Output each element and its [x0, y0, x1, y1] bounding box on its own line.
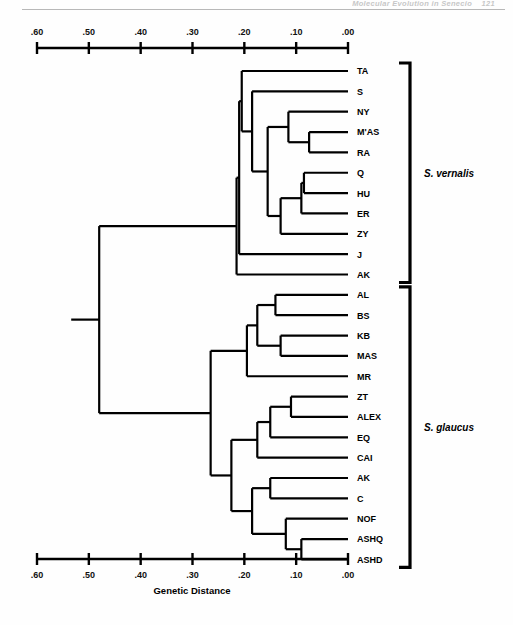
- species-label: S. glaucus: [424, 422, 474, 433]
- axis-title: Genetic Distance: [153, 585, 230, 596]
- tick-label-top: .50: [83, 27, 96, 37]
- dendrogram-tree: [71, 71, 348, 559]
- tick-label-bottom: .00: [342, 570, 355, 580]
- leaf-label: ALEX: [357, 412, 381, 422]
- tick-label-bottom: .60: [31, 570, 44, 580]
- tick-label-top: .00: [342, 27, 355, 37]
- leaf-label: ZT: [357, 392, 368, 402]
- leaf-label: NY: [357, 107, 370, 117]
- species-brackets: S. vernalisS. glaucus: [399, 63, 474, 567]
- leaf-label: BS: [357, 311, 370, 321]
- leaf-label: AL: [357, 290, 369, 300]
- species-bracket: [399, 287, 410, 568]
- tick-label-top: .20: [238, 27, 251, 37]
- leaf-label: TA: [357, 66, 369, 76]
- tick-label-bottom: .10: [290, 570, 303, 580]
- dendrogram-figure: .60.60.50.50.40.40.30.30.20.20.10.10.00.…: [0, 0, 513, 625]
- figure-page: Molecular Evolution in Senecio 121 .60.6…: [0, 0, 513, 625]
- species-bracket: [399, 63, 410, 283]
- leaf-label: C: [357, 494, 364, 504]
- leaf-label: KB: [357, 331, 370, 341]
- leaf-label: RA: [357, 148, 370, 158]
- tick-label-bottom: .20: [238, 570, 251, 580]
- leaf-label: AK: [357, 473, 370, 483]
- tick-label-top: .30: [186, 27, 199, 37]
- species-label: S. vernalis: [424, 168, 474, 179]
- leaf-label: MAS: [357, 351, 377, 361]
- tick-label-bottom: .50: [83, 570, 96, 580]
- leaf-label: MR: [357, 372, 371, 382]
- leaf-label: HU: [357, 189, 370, 199]
- tick-label-top: .60: [31, 27, 44, 37]
- leaf-label: M'AS: [357, 127, 379, 137]
- leaf-label: AK: [357, 270, 370, 280]
- leaf-label: S: [357, 87, 363, 97]
- leaf-label: J: [357, 250, 362, 260]
- leaf-labels: TASNYM'ASRAQHUERZYJAKALBSKBMASMRZTALEXEQ…: [357, 66, 383, 564]
- tick-label-top: .10: [290, 27, 303, 37]
- tick-label-top: .40: [134, 27, 147, 37]
- leaf-label: ASHD: [357, 555, 383, 565]
- leaf-label: ZY: [357, 229, 369, 239]
- axis-ticks: .60.60.50.50.40.40.30.30.20.20.10.10.00.…: [31, 27, 355, 580]
- leaf-label: Q: [357, 168, 364, 178]
- tick-label-bottom: .40: [134, 570, 147, 580]
- leaf-label: CAI: [357, 453, 373, 463]
- leaf-label: ER: [357, 209, 370, 219]
- tick-label-bottom: .30: [186, 570, 199, 580]
- leaf-label: ASHQ: [357, 534, 383, 544]
- leaf-label: NOF: [357, 514, 377, 524]
- leaf-label: EQ: [357, 433, 370, 443]
